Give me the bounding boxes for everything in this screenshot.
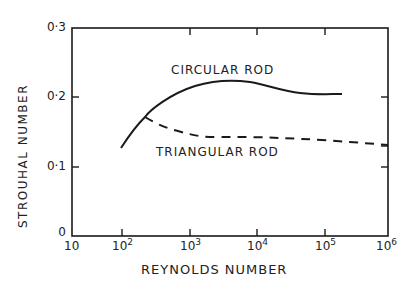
x-axis-ticks [122, 28, 325, 236]
y-tick-label: 0 [36, 225, 66, 239]
x-axis-label: REYNOLDS NUMBER [141, 262, 287, 277]
y-axis-label: STROUHAL NUMBER [16, 84, 30, 228]
y-tick-label: 0·1 [36, 159, 66, 173]
y-tick-label: 0·2 [36, 89, 66, 103]
label-triangular-rod: TRIANGULAR ROD [156, 145, 279, 159]
x-tick-label: 104 [247, 239, 268, 253]
y-tick-label: 0·3 [36, 20, 66, 34]
plot-frame [72, 28, 388, 236]
x-tick-label: 106 [376, 239, 397, 253]
plot-area [0, 0, 419, 288]
x-tick-label: 103 [180, 239, 201, 253]
x-tick-label: 102 [112, 239, 133, 253]
series-triangular-rod [145, 117, 388, 145]
label-circular-rod: CIRCULAR ROD [171, 63, 274, 77]
x-tick-label: 105 [315, 239, 336, 253]
series-circular-rod [121, 81, 342, 148]
x-tick-label: 10 [64, 239, 79, 253]
